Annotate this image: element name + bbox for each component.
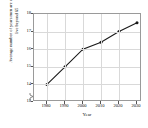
x-axis-title: Year bbox=[33, 112, 141, 117]
chart-container: Average number of years men are estimate… bbox=[0, 0, 148, 128]
x-axis-ticks: 1980 1990 2000 2010 2020 2030 bbox=[0, 0, 148, 128]
x-tick-label: 2030 bbox=[125, 103, 147, 108]
